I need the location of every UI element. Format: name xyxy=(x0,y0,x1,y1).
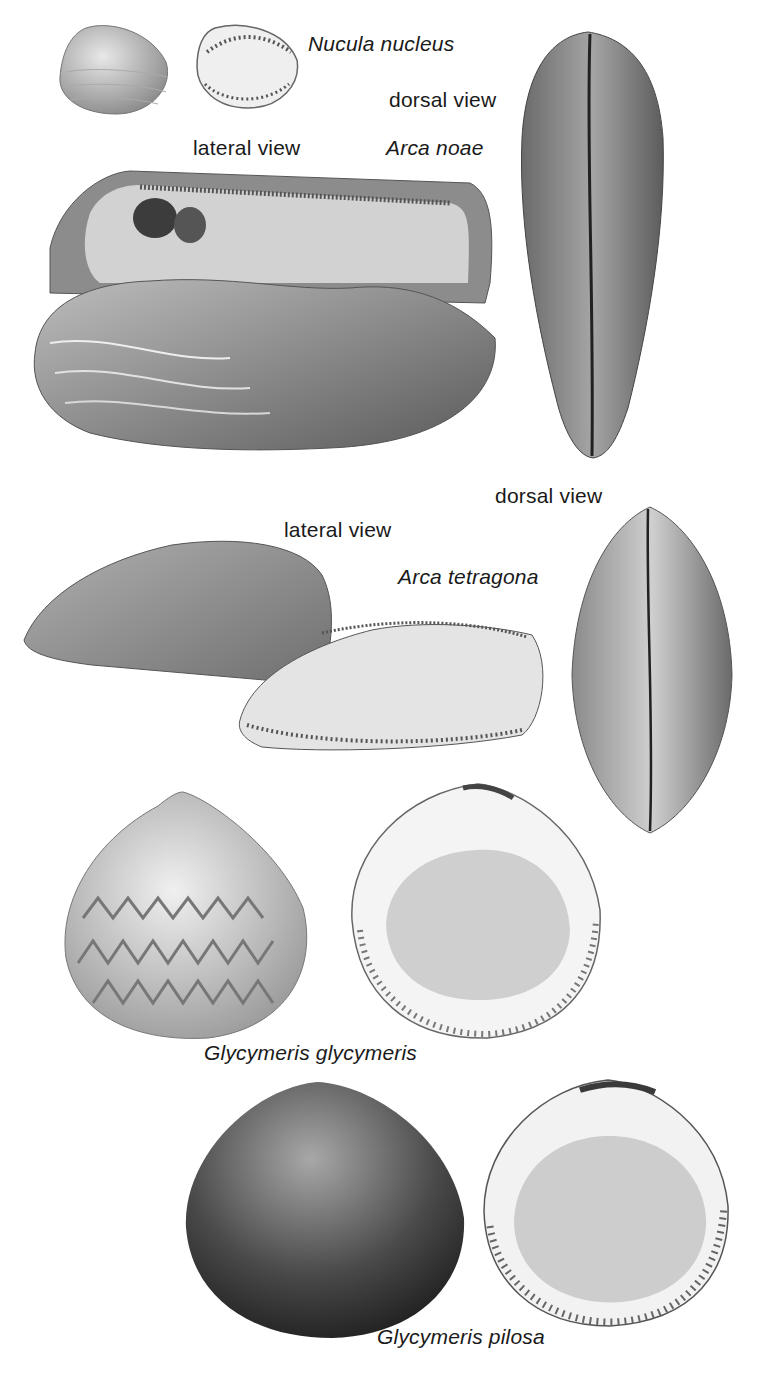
arca-noae-dorsal-view-label: dorsal view xyxy=(389,88,496,112)
glycymeris-pilosa-label: Glycymeris pilosa xyxy=(377,1325,545,1349)
glycymeris-glycymeris-exterior-illustration xyxy=(58,788,316,1042)
glycymeris-pilosa-interior-illustration xyxy=(480,1076,732,1330)
arca-noae-lateral-illustration xyxy=(30,163,500,458)
glycymeris-glycymeris-label: Glycymeris glycymeris xyxy=(204,1041,417,1065)
glycymeris-pilosa-exterior-illustration xyxy=(182,1078,472,1340)
nucula-nucleus-interior-illustration xyxy=(193,22,301,112)
nucula-nucleus-label: Nucula nucleus xyxy=(308,32,454,56)
arca-tetragona-lateral-illustration xyxy=(22,535,552,755)
arca-noae-lateral-view-label: lateral view xyxy=(193,136,300,160)
glycymeris-glycymeris-interior-illustration xyxy=(348,780,606,1042)
arca-noae-label: Arca noae xyxy=(386,136,484,160)
arca-noae-dorsal-illustration xyxy=(518,28,668,460)
nucula-nucleus-exterior-illustration xyxy=(56,22,174,118)
